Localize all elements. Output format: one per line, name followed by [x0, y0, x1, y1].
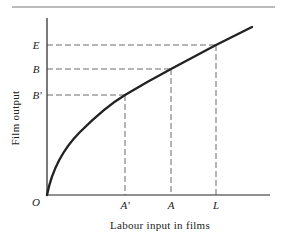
y-axis-title: Film output — [9, 91, 21, 146]
production-curve — [47, 27, 252, 195]
reference-lines — [47, 45, 216, 195]
origin-label: O — [32, 196, 40, 208]
x-axis-title: Labour input in films — [110, 219, 210, 231]
y-label-e: E — [32, 39, 40, 51]
y-label-b-prime: B' — [32, 89, 42, 101]
x-label-l: L — [212, 199, 219, 211]
x-label-a: A — [167, 199, 175, 211]
x-label-a-prime: A' — [119, 199, 130, 211]
y-label-b: B — [33, 63, 40, 75]
production-function-diagram: E B B' O A' A L Labour input in films Fi… — [0, 0, 283, 233]
